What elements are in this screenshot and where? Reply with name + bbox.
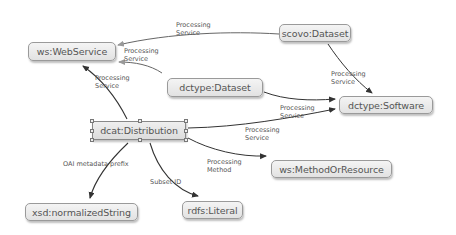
edge-label-dcat-software: Processing Service	[245, 126, 280, 142]
edge-label-scovo-software: Processing Service	[331, 70, 366, 86]
node-label: ws:WebService	[37, 46, 107, 57]
resize-handle-w[interactable]	[90, 129, 94, 133]
resize-handle-ne[interactable]	[184, 119, 188, 123]
node-ws-webservice[interactable]: ws:WebService	[28, 42, 116, 61]
edge-dcat-to-literal	[150, 143, 198, 196]
resize-handle-s[interactable]	[138, 138, 142, 142]
edge-dcat-to-normalized-string	[90, 143, 128, 198]
resize-handle-sw[interactable]	[90, 138, 94, 142]
edge-dctype-dataset-to-webservice	[119, 62, 162, 73]
edge-label-dcat-webservice: Processing Service	[95, 74, 130, 90]
node-label: rdfs:Literal	[188, 205, 238, 216]
edge-label-dcat-literal: Subset ID	[150, 178, 181, 186]
node-label: dctype:Software	[348, 100, 424, 111]
node-xsd-normalized-string[interactable]: xsd:normalizedString	[25, 203, 138, 221]
edge-dctype-dataset-to-software	[264, 92, 335, 100]
edge-label-scovo-webservice: Processing Service	[176, 21, 211, 37]
node-dctype-software[interactable]: dctype:Software	[339, 96, 433, 114]
edge-label-dcat-normalized-string: OAI metadata prefix	[63, 160, 129, 168]
edges-layer	[0, 0, 456, 235]
node-label: dctype:Dataset	[179, 82, 250, 93]
node-ws-method-or-resource[interactable]: ws:MethodOrResource	[271, 160, 392, 178]
node-label: ws:MethodOrResource	[279, 164, 384, 175]
resize-handle-n[interactable]	[138, 119, 142, 123]
node-label: xsd:normalizedString	[32, 207, 131, 218]
resize-handle-se[interactable]	[184, 138, 188, 142]
node-label: scovo:Dataset	[282, 28, 349, 39]
edge-label-dctype-dataset-software: Processing Service	[280, 104, 315, 120]
diagram-canvas[interactable]: Processing Service Processing Service Pr…	[0, 0, 456, 235]
node-scovo-dataset[interactable]: scovo:Dataset	[279, 24, 351, 42]
node-label: dcat:Distribution	[100, 125, 178, 136]
node-dctype-dataset[interactable]: dctype:Dataset	[167, 78, 263, 97]
node-dcat-distribution[interactable]: dcat:Distribution	[92, 121, 186, 140]
resize-handle-e[interactable]	[184, 129, 188, 133]
edge-label-dctype-dataset-webservice: Processing Service	[124, 47, 159, 63]
resize-handle-nw[interactable]	[90, 119, 94, 123]
node-rdfs-literal[interactable]: rdfs:Literal	[182, 201, 243, 219]
edge-label-dcat-method: Processing Method	[207, 158, 242, 174]
